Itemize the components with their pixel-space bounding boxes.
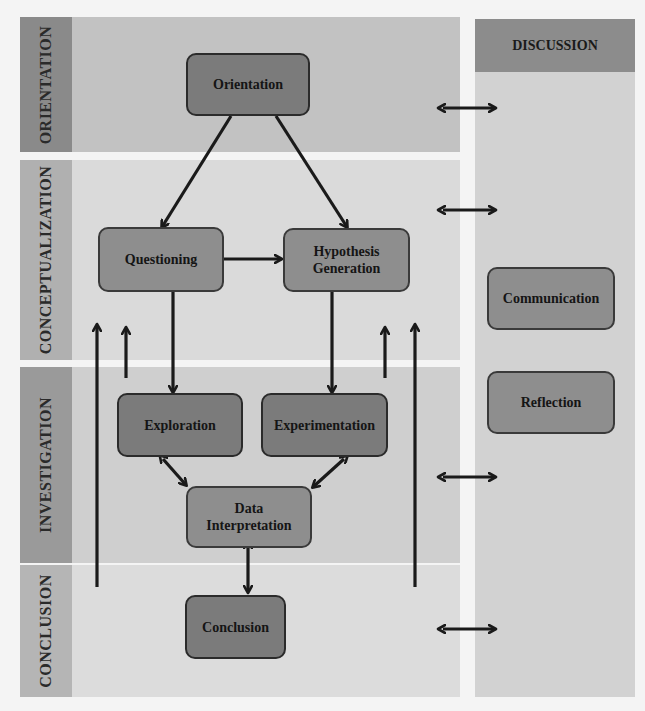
node-exploration: Exploration [117, 393, 243, 457]
discussion-column: DISCUSSION [475, 19, 635, 697]
node-questioning: Questioning [98, 227, 224, 292]
node-label: Communication [503, 290, 599, 307]
phase-label-text: CONCLUSION [37, 574, 55, 687]
node-hypothesis-generation: Hypothesis Generation [283, 228, 410, 292]
node-label: Exploration [144, 417, 216, 434]
phase-label-orientation: ORIENTATION [20, 17, 72, 152]
node-label: Experimentation [274, 417, 375, 434]
node-reflection: Reflection [487, 371, 615, 434]
node-label: Questioning [125, 251, 197, 268]
node-orientation: Orientation [186, 53, 310, 116]
discussion-header: DISCUSSION [475, 19, 635, 72]
node-label: Data Interpretation [206, 500, 291, 534]
node-label: Conclusion [202, 619, 269, 636]
node-experimentation: Experimentation [261, 393, 388, 457]
node-conclusion: Conclusion [185, 595, 286, 659]
node-communication: Communication [487, 267, 615, 330]
phase-label-investigation: INVESTIGATION [20, 367, 72, 563]
phase-label-text: INVESTIGATION [37, 397, 55, 533]
phase-label-text: CONCEPTUALIZATION [37, 166, 55, 355]
node-label: Reflection [521, 394, 582, 411]
node-label: Orientation [213, 76, 283, 93]
phase-label-text: ORIENTATION [37, 25, 55, 144]
phase-label-conceptualization: CONCEPTUALIZATION [20, 160, 72, 360]
node-data-interpretation: Data Interpretation [186, 486, 312, 548]
node-label: Hypothesis Generation [313, 243, 381, 277]
phase-label-conclusion: CONCLUSION [20, 565, 72, 697]
